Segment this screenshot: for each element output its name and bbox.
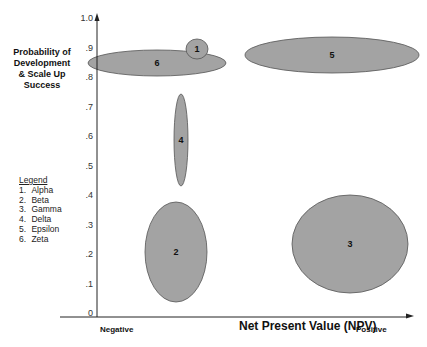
- y-tick-label: .5: [85, 161, 93, 171]
- y-axis-title: Probability of Development & Scale Up Su…: [2, 47, 82, 91]
- bubble-label: 2: [173, 247, 178, 257]
- bubble-delta: 4: [174, 94, 188, 186]
- bubble-gamma: 3: [292, 195, 408, 293]
- y-tick-label: .3: [85, 220, 93, 230]
- y-tick-label: .7: [85, 102, 93, 112]
- bubble-beta: 2: [145, 202, 207, 302]
- bubble-label: 1: [194, 44, 199, 54]
- bubble-label: 4: [178, 135, 183, 145]
- y-tick-label: .2: [85, 249, 93, 259]
- legend-item: 6. Zeta: [19, 235, 62, 245]
- y-tick-label: .4: [85, 190, 93, 200]
- y-axis-title-line: Probability of: [2, 47, 82, 58]
- bubble-label: 3: [347, 239, 352, 249]
- y-tick-label: .8: [85, 72, 93, 82]
- y-axis-title-line: & Scale Up: [2, 69, 82, 80]
- bubble-alpha: 1: [186, 39, 208, 59]
- y-tick-label: .9: [85, 43, 93, 53]
- bubble-label: 6: [154, 58, 159, 68]
- x-axis-negative-label: Negative: [100, 325, 133, 334]
- y-axis-arrow-icon: [95, 13, 100, 21]
- x-axis-positive-label: Positive: [356, 325, 387, 334]
- y-tick-label: 1.0: [80, 13, 93, 23]
- y-axis-title-line: Success: [2, 80, 82, 91]
- bubble-epsilon: 5: [245, 37, 419, 73]
- x-axis-arrow-icon: [406, 314, 414, 319]
- legend: Legend 1. Alpha 2. Beta 3. Gamma 4. Delt…: [19, 176, 62, 245]
- bubble-label: 5: [329, 50, 334, 60]
- bubbles: 654231: [88, 37, 419, 302]
- y-axis-title-line: Development: [2, 58, 82, 69]
- y-tick-label: .6: [85, 131, 93, 141]
- y-tick-label: .1: [85, 279, 93, 289]
